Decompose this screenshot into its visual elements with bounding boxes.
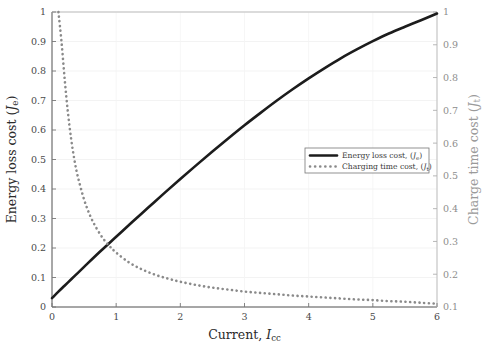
x-tick-label: 0 <box>49 311 55 322</box>
y-right-tick-label: 1 <box>443 6 449 17</box>
legend-label-2[interactable]: Charging time cost, (Jt) <box>342 162 432 172</box>
x-axis-title-text: Current, Icc <box>208 327 281 343</box>
x-tick-label: 2 <box>177 311 183 322</box>
x-tick-label: 3 <box>241 311 247 322</box>
chart-figure: 0123456 00.10.20.30.40.50.60.70.80.91 0.… <box>0 0 488 357</box>
y-left-tick-label: 0.6 <box>31 124 46 135</box>
x-tick-label: 1 <box>113 311 119 322</box>
legend-label-1[interactable]: Energy loss cost, (Je) <box>342 151 422 161</box>
y-left-tick-label: 0.4 <box>31 183 46 194</box>
chart-legend[interactable]: Energy loss cost, (Je)Charging time cost… <box>305 148 432 173</box>
line-chart: 0123456 00.10.20.30.40.50.60.70.80.91 0.… <box>0 0 488 357</box>
y-right-tick-label: 0.7 <box>443 105 458 116</box>
y-axis-left-title: Energy loss cost (Je) <box>4 96 20 224</box>
y-right-tick-label: 0.8 <box>443 72 458 83</box>
x-tick-label: 5 <box>370 311 376 322</box>
y-left-tick-label: 0.5 <box>31 154 46 165</box>
y-right-tick-label: 0.3 <box>443 236 458 247</box>
y-left-tick-label: 0 <box>40 301 46 312</box>
y-right-tick-label: 0.4 <box>443 203 458 214</box>
y-left-tick-label: 0.2 <box>31 242 46 253</box>
y-left-tick-label: 0.7 <box>31 95 46 106</box>
y-right-tick-label: 0.1 <box>443 301 458 312</box>
x-axis-title: Current, Icc <box>208 327 281 343</box>
y-right-tick-label: 0.2 <box>443 269 458 280</box>
y-left-tick-label: 1 <box>40 6 46 17</box>
x-tick-label: 4 <box>306 311 312 322</box>
y-right-tick-label: 0.5 <box>443 170 458 181</box>
y-axis-left-title-text: Energy loss cost (Je) <box>4 96 20 224</box>
y-right-tick-label: 0.9 <box>443 39 458 50</box>
x-tick-label: 6 <box>434 311 440 322</box>
y-axis-right-title-text: Charge time cost (Jt) <box>466 94 482 225</box>
y-left-tick-label: 0.1 <box>31 272 46 283</box>
y-left-tick-label: 0.8 <box>31 65 46 76</box>
y-right-tick-label: 0.6 <box>443 138 458 149</box>
y-axis-right-title: Charge time cost (Jt) <box>466 94 482 225</box>
y-left-tick-label: 0.9 <box>31 36 46 47</box>
y-left-tick-label: 0.3 <box>31 213 46 224</box>
